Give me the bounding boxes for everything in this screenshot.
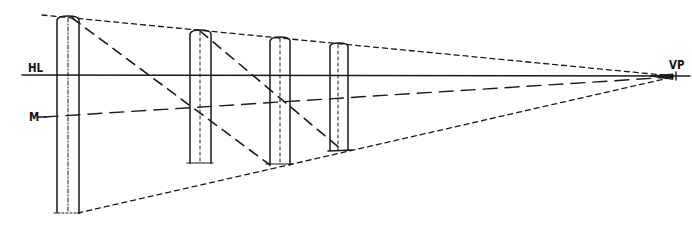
diagonal-line-2: [200, 31, 342, 150]
post-2: [187, 30, 213, 163]
diagram-canvas: [0, 0, 692, 231]
post-4: [328, 43, 352, 151]
perspective-diagram: HL M VP: [0, 0, 692, 231]
top-convergence-line: [42, 15, 673, 76]
vanishing-point-label: VP: [669, 58, 684, 72]
measuring-line-label: M: [29, 110, 39, 124]
diagonal-line-1: [72, 18, 270, 165]
horizon-line: [22, 75, 690, 76]
measuring-line: [44, 77, 673, 117]
horizon-line-label: HL: [28, 61, 43, 75]
bottom-convergence-line: [78, 77, 673, 213]
